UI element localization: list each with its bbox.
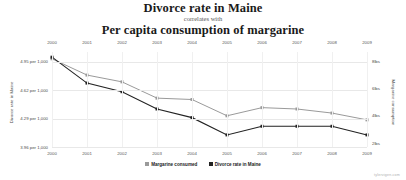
gridline-horizontal bbox=[52, 119, 367, 120]
x-axis-top-tick-label: 2001 bbox=[72, 40, 102, 45]
legend-marker-icon-divorce bbox=[209, 162, 213, 166]
x-axis-top-tick-label: 2008 bbox=[317, 40, 347, 45]
gridline-vertical bbox=[227, 52, 228, 147]
correlation-chart: Divorce rate in Maine correlates with Pe… bbox=[0, 0, 406, 180]
legend-label-margarine: Margarine consumed bbox=[151, 162, 197, 167]
x-axis-bottom-tick-label: 2005 bbox=[212, 151, 242, 156]
x-axis-bottom-tick-label: 2003 bbox=[142, 151, 172, 156]
legend-label-divorce: Divorce rate in Maine bbox=[215, 162, 261, 167]
x-axis-bottom-tick-label: 2001 bbox=[72, 151, 102, 156]
y-axis-left-tick-label: 4.95 per 1,000 bbox=[8, 59, 48, 64]
x-axis-bottom-tick-label: 2007 bbox=[282, 151, 312, 156]
x-axis-top-tick-label: 2005 bbox=[212, 40, 242, 45]
x-axis-top-tick-label: 2006 bbox=[247, 40, 277, 45]
x-axis-top-tick-label: 2004 bbox=[177, 40, 207, 45]
chart-legend: Margarine consumed Divorce rate in Maine bbox=[0, 162, 406, 167]
gridline-vertical bbox=[87, 52, 88, 147]
x-axis-top-tick-label: 2002 bbox=[107, 40, 137, 45]
page-title: Divorce rate in Maine bbox=[0, 2, 406, 15]
y-axis-left-tick-label: 4.29 per 1,000 bbox=[8, 116, 48, 121]
x-axis-top-tick-label: 2000 bbox=[37, 40, 67, 45]
chart-title-block: Divorce rate in Maine correlates with Pe… bbox=[0, 2, 406, 37]
x-axis-bottom-tick-label: 2002 bbox=[107, 151, 137, 156]
x-axis-top-tick-label: 2003 bbox=[142, 40, 172, 45]
x-axis-bottom-tick-label: 2004 bbox=[177, 151, 207, 156]
series-canvas bbox=[52, 52, 367, 147]
title-connector: correlates with bbox=[0, 15, 406, 23]
y-axis-right-tick-label: 2lbs bbox=[372, 141, 402, 146]
gridline-vertical bbox=[122, 52, 123, 147]
gridline-horizontal bbox=[52, 147, 367, 148]
gridline-vertical bbox=[297, 52, 298, 147]
legend-item-divorce[interactable]: Divorce rate in Maine bbox=[209, 162, 261, 167]
x-axis-bottom-tick-label: 2009 bbox=[352, 151, 382, 156]
gridline-vertical bbox=[157, 52, 158, 147]
y-axis-right-tick-label: 8lbs bbox=[372, 59, 402, 64]
watermark: tylervigen.com bbox=[374, 173, 400, 177]
y-axis-right-tick-label: 4lbs bbox=[372, 113, 402, 118]
gridline-horizontal bbox=[52, 90, 367, 91]
gridline-horizontal bbox=[52, 62, 367, 63]
line-divorce-rate bbox=[52, 57, 367, 135]
x-axis-top-tick-label: 2009 bbox=[352, 40, 382, 45]
page-subtitle: Per capita consumption of margarine bbox=[0, 23, 406, 37]
y-axis-left-title: Divorce rate in Maine bbox=[9, 73, 14, 133]
y-axis-left-tick-label: 3.96 per 1,000 bbox=[8, 145, 48, 150]
markers-divorce-rate bbox=[51, 56, 369, 137]
y-axis-left-tick-label: 4.62 per 1,000 bbox=[8, 88, 48, 93]
x-axis-bottom-tick-label: 2000 bbox=[37, 151, 67, 156]
gridline-vertical bbox=[367, 52, 368, 147]
gridline-vertical bbox=[192, 52, 193, 147]
y-axis-right-tick-label: 6lbs bbox=[372, 86, 402, 91]
gridline-vertical bbox=[332, 52, 333, 147]
x-axis-top-tick-label: 2007 bbox=[282, 40, 312, 45]
y-axis-right-title: Margarine consumption bbox=[391, 70, 396, 136]
x-axis-bottom-tick-label: 2006 bbox=[247, 151, 277, 156]
gridline-vertical bbox=[52, 52, 53, 147]
plot-area bbox=[52, 52, 367, 147]
x-axis-bottom-tick-label: 2008 bbox=[317, 151, 347, 156]
gridline-vertical bbox=[262, 52, 263, 147]
legend-marker-icon-margarine bbox=[145, 162, 149, 166]
legend-item-margarine[interactable]: Margarine consumed bbox=[145, 162, 197, 167]
